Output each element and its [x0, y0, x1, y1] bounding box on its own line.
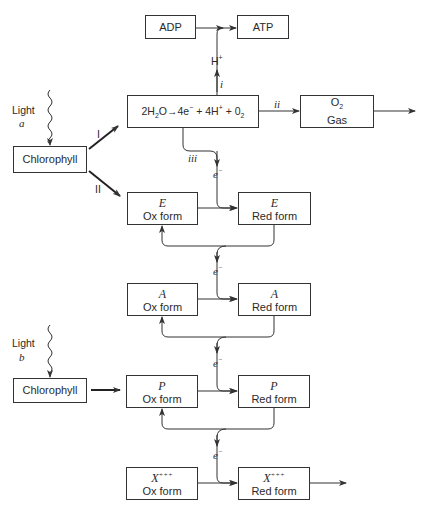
- o2-gas-box: O2 Gas: [300, 95, 374, 128]
- branch-I-arrow: [89, 126, 118, 149]
- light-b-wave: [48, 325, 52, 377]
- path-ii-label: ii: [274, 98, 280, 110]
- electron-label-4: e−: [213, 446, 223, 461]
- carrier-p-ox-box: P Ox form: [126, 375, 198, 408]
- electron-label-2: e−: [213, 262, 223, 277]
- branch-II-label: II: [95, 183, 101, 195]
- electron-label-3: e−: [213, 354, 223, 369]
- gas-label: Gas: [327, 114, 347, 127]
- h-plus-label: H+: [211, 52, 223, 67]
- atp-label: ATP: [253, 21, 274, 34]
- o2-label: O2: [331, 96, 343, 113]
- atp-box: ATP: [237, 15, 289, 39]
- light-a-var: a: [19, 117, 25, 129]
- carrier-a-red-box: A Red form: [238, 283, 311, 316]
- adp-label: ADP: [159, 21, 182, 34]
- light-b-var: b: [19, 351, 25, 363]
- diagram-connectors: [0, 0, 427, 513]
- carrier-x-red-box: X+++ Red form: [238, 467, 310, 500]
- chlorophyll-b-label: Chlorophyll: [22, 384, 77, 397]
- light-a-wave: [48, 90, 52, 145]
- water-splitting-reaction-box: 2H2O→4e− + 4H+ + 02: [127, 95, 259, 128]
- branch-II-arrow: [89, 171, 120, 196]
- light-a-label: Light: [12, 104, 35, 116]
- reaction-equation: 2H2O→4e− + 4H+ + 02: [142, 101, 245, 122]
- carrier-p-red-box: P Red form: [238, 375, 310, 408]
- adp-box: ADP: [145, 15, 196, 39]
- carrier-e-ox-box: E Ox form: [127, 192, 198, 225]
- carrier-a-ox-box: A Ox form: [127, 283, 198, 316]
- path-i-label: i: [220, 78, 223, 90]
- path-iii-label: iii: [188, 152, 197, 164]
- carrier-x-ox-box: X+++ Ox form: [126, 467, 198, 500]
- electron-label-1: e−: [213, 165, 223, 180]
- chlorophyll-a-label: Chlorophyll: [22, 153, 77, 166]
- branch-I-label: I: [97, 128, 100, 140]
- chlorophyll-a-box: Chlorophyll: [13, 146, 87, 173]
- chlorophyll-b-box: Chlorophyll: [13, 378, 87, 403]
- light-b-label: Light: [12, 337, 35, 349]
- carrier-e-red-box: E Red form: [238, 192, 311, 225]
